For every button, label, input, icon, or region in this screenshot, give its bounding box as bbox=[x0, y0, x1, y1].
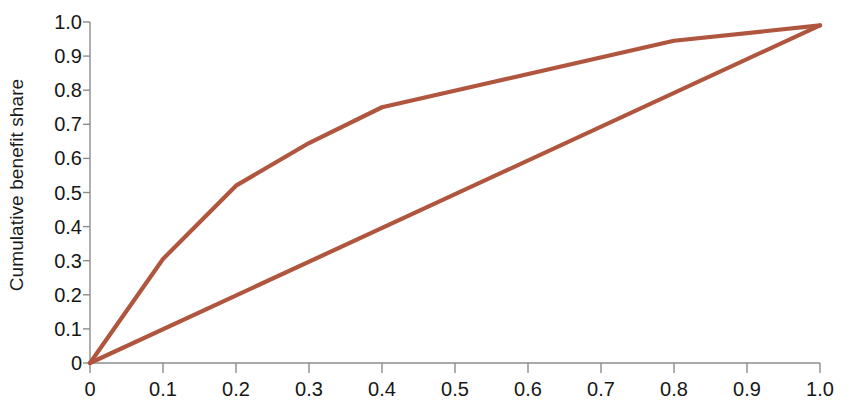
data-series-group bbox=[90, 25, 820, 363]
y-axis-ticks bbox=[83, 22, 90, 363]
plot-area bbox=[0, 0, 849, 402]
x-axis-ticks bbox=[90, 363, 820, 373]
chart-figure: Cumulative benefit share 00.10.20.30.40.… bbox=[0, 0, 849, 402]
series-line bbox=[90, 25, 820, 363]
